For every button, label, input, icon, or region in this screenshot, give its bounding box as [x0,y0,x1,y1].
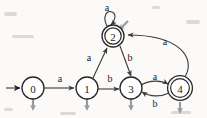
transition-label-1-3: b [108,73,113,84]
transition-4-to-3: b [142,92,169,109]
state-label-3: 3 [128,83,134,95]
transition-3-to-4: a [141,71,168,86]
transition-label-1-2: a [87,52,92,63]
transition-4-to-2: a [128,35,188,77]
transition-label-2-self: a [105,2,110,13]
transition-2-to-3: b [120,46,133,76]
state-label-2: 2 [110,31,116,43]
transition-1-to-2: a [87,48,107,78]
state-diagram-figure: a a b a b a b [0,0,207,118]
state-label-0: 0 [30,83,36,95]
transition-0-to-1: a [44,73,74,89]
transition-2-self-loop: a [105,2,115,27]
transition-label-4-3: b [153,98,158,109]
transition-label-4-2: a [163,36,168,47]
state-diagram-canvas: a a b a b a b [0,0,207,118]
transition-1-to-3: b [98,73,119,90]
state-node-4[interactable]: 4 [168,76,193,101]
state-node-2[interactable]: 2 [102,25,124,47]
transition-label-0-1: a [58,73,63,84]
state-label-4: 4 [177,83,183,95]
state-label-1: 1 [84,83,90,95]
transition-label-3-4: a [153,71,158,82]
state-node-3[interactable]: 3 [120,77,142,99]
transition-label-2-3: b [128,52,133,63]
state-node-0[interactable]: 0 [22,77,44,99]
state-node-1[interactable]: 1 [76,77,98,99]
